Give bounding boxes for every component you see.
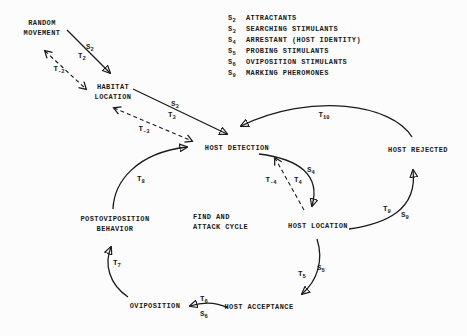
edge-label-t3: T3 (168, 111, 176, 121)
legend-text-s3: SEARCHING STIMULANTS (246, 25, 338, 33)
node-oviposition: OVIPOSITION (130, 302, 181, 312)
edge-label-s2: S2 (86, 43, 94, 53)
node-host-rejected: HOST REJECTED (388, 146, 448, 156)
legend-symbol-s5: S5 (228, 47, 246, 57)
edge-t6-s6-arrow (190, 303, 228, 308)
edge-label-s9: S9 (401, 211, 409, 221)
edge-label-t-2: T-2 (53, 65, 64, 75)
label-find-attack-line1: FIND AND (193, 213, 248, 223)
edge-label-t8: T8 (137, 175, 145, 185)
legend-text-s5: PROBING STIMULANTS (246, 47, 329, 55)
node-habitat-location-line2: LOCATION (95, 93, 132, 103)
legend: S2 ATTRACTANTS S3 SEARCHING STIMULANTS S… (228, 14, 361, 80)
edge-t8-arrow (113, 147, 187, 209)
label-find-attack-cycle: FIND AND ATTACK CYCLE (193, 213, 248, 232)
edge-t-3-arrow (114, 108, 192, 141)
edge-t7-arrow (108, 247, 128, 297)
legend-item-s5: S5 PROBING STIMULANTS (228, 47, 361, 58)
edge-label-s3: S3 (171, 100, 179, 110)
edge-label-s5: S5 (317, 264, 325, 274)
node-postoviposition-line2: BEHAVIOR (80, 225, 149, 235)
host-selection-cycle-diagram: RANDOM MOVEMENT HABITAT LOCATION HOST DE… (0, 0, 467, 336)
legend-text-s9: MARKING PHEROMONES (246, 69, 329, 77)
legend-symbol-s2: S2 (228, 14, 246, 24)
edge-label-s4: S4 (307, 166, 315, 176)
node-host-location: HOST LOCATION (288, 222, 348, 232)
legend-symbol-s3: S3 (228, 25, 246, 35)
edge-label-t9: T9 (383, 205, 391, 215)
node-postoviposition-behavior: POSTOVIPOSITION BEHAVIOR (80, 215, 149, 234)
node-habitat-location: HABITAT LOCATION (95, 83, 132, 102)
node-host-acceptance: HOST ACCEPTANCE (224, 303, 293, 313)
legend-item-s6: S6 OVIPOSITION STIMULANTS (228, 58, 361, 69)
edge-label-t10: T10 (318, 111, 329, 121)
legend-item-s4: S4 ARRESTANT (HOST IDENTITY) (228, 36, 361, 47)
node-random-movement-line1: RANDOM (24, 19, 61, 29)
legend-text-s6: OVIPOSITION STIMULANTS (246, 58, 347, 66)
legend-symbol-s9: S9 (228, 69, 246, 79)
label-find-attack-line2: ATTACK CYCLE (193, 223, 248, 233)
edge-label-t-3: T-3 (138, 125, 149, 135)
edge-label-t4: T4 (294, 176, 302, 186)
node-host-detection: HOST DETECTION (205, 144, 269, 154)
edge-label-s6: S6 (200, 310, 208, 320)
legend-symbol-s4: S4 (228, 36, 246, 46)
edge-label-t-4: T-4 (265, 176, 276, 186)
legend-text-s4: ARRESTANT (HOST IDENTITY) (246, 36, 361, 44)
node-postoviposition-line1: POSTOVIPOSITION (80, 215, 149, 225)
edge-label-t6: T6 (200, 295, 208, 305)
node-random-movement: RANDOM MOVEMENT (24, 19, 61, 38)
edge-label-t7: T7 (113, 259, 121, 269)
edge-label-t2: T2 (78, 52, 86, 62)
edge-label-t5: T5 (298, 270, 306, 280)
node-random-movement-line2: MOVEMENT (24, 29, 61, 39)
legend-text-s2: ATTRACTANTS (246, 14, 297, 22)
legend-item-s3: S3 SEARCHING STIMULANTS (228, 25, 361, 36)
node-habitat-location-line1: HABITAT (95, 83, 132, 93)
legend-symbol-s6: S6 (228, 58, 246, 68)
legend-item-s2: S2 ATTRACTANTS (228, 14, 361, 25)
legend-item-s9: S9 MARKING PHEROMONES (228, 69, 361, 80)
